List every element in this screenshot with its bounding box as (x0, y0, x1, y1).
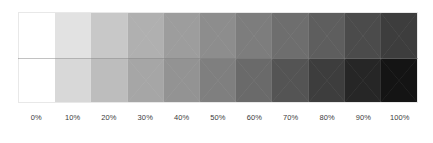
swatch-bottom-row-30pct (128, 59, 164, 102)
swatch-top-row-20pct (91, 13, 127, 59)
swatch-bottom-row-80pct (309, 59, 345, 102)
x-axis-tick-label: 20% (91, 110, 127, 126)
swatch-bottom-row-40pct (164, 59, 200, 102)
swatch-top-row-100pct (381, 13, 417, 59)
swatch-bottom-row-90pct (345, 59, 381, 102)
scan-artifact-overlay (381, 13, 417, 59)
swatch-top-row-10pct (55, 13, 91, 59)
scan-artifact-overlay (381, 59, 417, 102)
x-axis-tick-label: 40% (163, 110, 199, 126)
scan-artifact-overlay (345, 59, 381, 102)
scan-artifact-overlay (128, 13, 164, 59)
scan-artifact-overlay (309, 59, 345, 102)
swatch-bottom-row-50pct (200, 59, 236, 102)
x-axis-tick-label: 10% (54, 110, 90, 126)
swatch-top-row-50pct (200, 13, 236, 59)
swatch-grid (18, 12, 418, 103)
x-axis-tick-label: 0% (18, 110, 54, 126)
swatch-bottom-row-0pct (19, 59, 55, 102)
scan-artifact-overlay (236, 13, 272, 59)
swatch-top-row-90pct (345, 13, 381, 59)
x-axis-tick-label: 90% (345, 110, 381, 126)
scan-artifact-overlay (309, 13, 345, 59)
swatch-bottom-row-10pct (55, 59, 91, 102)
swatch-top-row-40pct (164, 13, 200, 59)
x-axis-tick-label: 50% (200, 110, 236, 126)
swatch-top-row-0pct (19, 13, 55, 59)
swatch-bottom-row-60pct (236, 59, 272, 102)
scan-artifact-overlay (272, 13, 308, 59)
swatch-top-row-30pct (128, 13, 164, 59)
scan-artifact-overlay (200, 59, 236, 102)
x-axis-tick-label: 70% (273, 110, 309, 126)
swatch-row-bottom (19, 59, 417, 102)
swatch-row-top (19, 13, 417, 59)
x-axis-tick-label: 60% (236, 110, 272, 126)
swatch-top-row-80pct (309, 13, 345, 59)
swatch-top-row-70pct (272, 13, 308, 59)
swatch-bottom-row-20pct (91, 59, 127, 102)
grayscale-step-wedge-chart: 0%10%20%30%40%50%60%70%80%90%100% (0, 0, 433, 143)
swatch-bottom-row-100pct (381, 59, 417, 102)
scan-artifact-overlay (345, 13, 381, 59)
scan-artifact-overlay (164, 13, 200, 59)
scan-artifact-overlay (128, 59, 164, 102)
swatch-bottom-row-70pct (272, 59, 308, 102)
x-axis-labels: 0%10%20%30%40%50%60%70%80%90%100% (18, 110, 418, 126)
x-axis-tick-label: 80% (309, 110, 345, 126)
scan-artifact-overlay (164, 59, 200, 102)
scan-artifact-overlay (200, 13, 236, 59)
x-axis-tick-label: 30% (127, 110, 163, 126)
swatch-top-row-60pct (236, 13, 272, 59)
scan-artifact-overlay (236, 59, 272, 102)
x-axis-tick-label: 100% (382, 110, 418, 126)
scan-artifact-overlay (272, 59, 308, 102)
